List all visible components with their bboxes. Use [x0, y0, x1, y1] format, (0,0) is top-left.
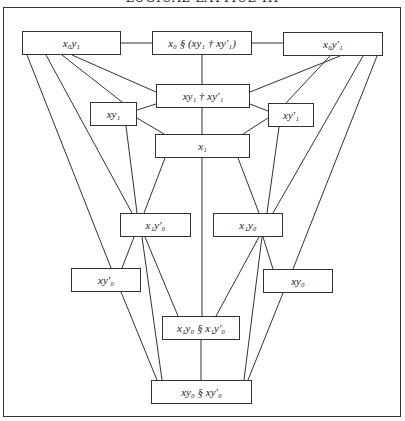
edge-line — [142, 237, 162, 380]
node-x1: x₁ — [155, 134, 250, 158]
edge-line — [243, 118, 268, 134]
node-label: x₁y₀ — [239, 219, 256, 231]
node-xy0: xy₀ — [263, 269, 333, 293]
node-label: xy₀ — [291, 275, 305, 287]
edge-line — [250, 104, 268, 111]
edge-line — [244, 237, 262, 380]
node-xy0_sect: xy₀ § xy′₀ — [151, 380, 252, 404]
edge-line — [72, 55, 156, 92]
edge-line — [46, 55, 132, 213]
edge-line — [238, 158, 259, 213]
node-x1y0_sect: x₁y₀ § x₁y′₀ — [162, 316, 240, 340]
node-label: x₁y₀ § x₁y′₀ — [177, 322, 225, 334]
node-x0_sect: x₀ § (xy₁ † xy′₁) — [152, 31, 252, 55]
edge-line — [27, 55, 111, 268]
node-label: xy₁ — [107, 108, 121, 120]
edge-line — [263, 237, 273, 269]
edge-line — [216, 237, 259, 316]
node-xyp0: xy′₀ — [71, 268, 141, 292]
node-x0yp1: x₀y′₁ — [283, 32, 383, 56]
edge-line — [293, 56, 377, 269]
edge-line — [122, 237, 134, 268]
edge-line — [137, 104, 156, 110]
node-label: xy₁ † xy′₁ — [183, 90, 224, 102]
node-label: x₀ § (xy₁ † xy′₁) — [168, 37, 236, 49]
node-x1y0: x₁y₀ — [213, 213, 283, 237]
edge-line — [286, 56, 330, 103]
edge-line — [126, 126, 137, 213]
edge-line — [145, 237, 178, 316]
node-label: x₁y′₀ — [146, 219, 166, 231]
node-label: x₀y₁ — [63, 37, 80, 49]
node-x1yp0: x₁y′₀ — [120, 213, 191, 237]
edge-line — [273, 56, 363, 213]
node-xy1: xy₁ — [90, 102, 137, 126]
edge-line — [267, 127, 279, 213]
node-xyp1: xy′₁ — [268, 103, 314, 127]
node-label: xy′₁ — [283, 109, 299, 121]
edge-line — [144, 158, 165, 213]
node-label: xy₀ § xy′₀ — [181, 386, 222, 398]
node-xy1_dag: xy₁ † xy′₁ — [156, 84, 250, 108]
edge-line — [137, 118, 164, 134]
edge-line — [62, 55, 122, 102]
edge-layer — [0, 0, 405, 421]
node-label: x₀y′₁ — [323, 38, 343, 50]
node-label: x₁ — [198, 140, 207, 152]
edge-line — [250, 56, 340, 92]
node-x0y1: x₀y₁ — [22, 31, 121, 55]
node-label: xy′₀ — [98, 274, 114, 286]
